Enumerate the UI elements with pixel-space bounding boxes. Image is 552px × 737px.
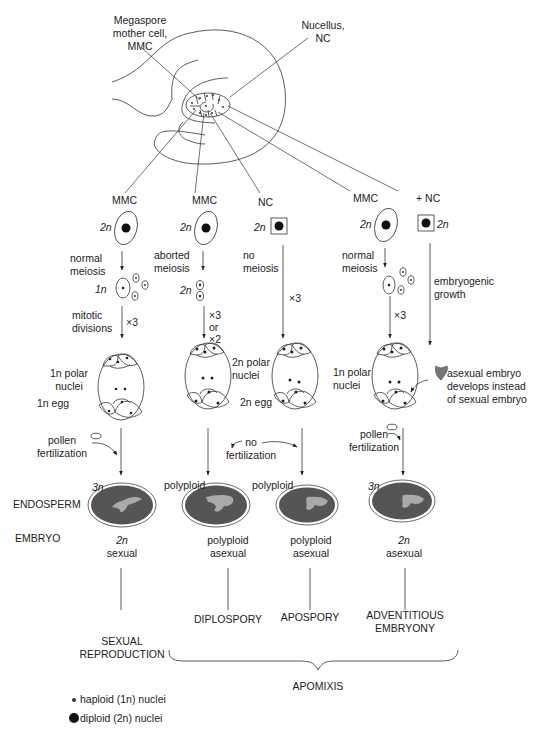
col1-after-ploidy: 1n [95, 283, 107, 296]
col4-origin: MMC [353, 192, 378, 205]
col2-step2-count: ×3or×2 [209, 309, 221, 345]
col3-step2-count: ×3 [289, 292, 301, 305]
col1-sac-polar: 1n polarnuclei [46, 367, 92, 393]
col4-nc-step: embryogenicgrowth [434, 275, 494, 301]
apomixis-label: APOMIXIS [268, 680, 368, 693]
col2-sac-polar: 2n polarnuclei [232, 356, 270, 382]
col4-sac-polar: 1n polarnuclei [333, 366, 371, 392]
col4-origin-extra: + NC [416, 192, 440, 205]
col3-step1: nomeiosis [243, 249, 279, 275]
pathway-apospory: APOSPORY [264, 611, 356, 624]
pathway-diplospory: DIPLOSPORY [180, 613, 276, 626]
col2-origin: MMC [192, 194, 217, 207]
no-fertilization: nofertilization [221, 436, 281, 462]
mmc-label: Megaspore mother cell, MMC [98, 14, 182, 53]
endosperm-row-label: ENDOSPERM [13, 498, 81, 511]
leader-lines [125, 38, 398, 193]
col4-step1: normalmeiosis [342, 249, 378, 275]
pathway-sexual: SEXUALREPRODUCTION [70, 635, 174, 661]
col2-endosperm-ploidy: polyploid [164, 479, 205, 492]
col4-step2-count: ×3 [394, 309, 406, 322]
col1-sac-egg: 1n egg [37, 397, 69, 410]
col4-embryo: 2nasexual [376, 534, 432, 560]
nucellus-label: Nucellus, NC [298, 19, 348, 45]
col1-origin: MMC [112, 194, 137, 207]
col4-ploidy: 2n [360, 218, 372, 231]
embryo-row-label: EMBRYO [15, 532, 60, 545]
col1-endosperm-ploidy: 3n [92, 481, 104, 494]
legend-diploid: diploid (2n) nuclei [80, 712, 162, 725]
col1-fertilization: pollenfertilization [33, 434, 91, 460]
col4-nc-ploidy: 2n [437, 218, 449, 231]
col1-ploidy: 2n [100, 221, 112, 234]
col4-fertilization: pollenfertilization [344, 428, 404, 454]
col3-endosperm-ploidy: polyploid [252, 479, 293, 492]
col3-sac-egg: 2n egg [240, 396, 272, 409]
col2-after-ploidy: 2n [180, 284, 192, 297]
col1-embryo: 2nsexual [96, 534, 148, 560]
col3-origin: NC [258, 196, 273, 209]
col4-endosperm-ploidy: 3n [368, 480, 380, 493]
diploid-dot-icon [69, 713, 79, 723]
col1-step1: normalmeiosis [70, 252, 106, 278]
col2-step1: abortedmeiosis [154, 249, 190, 275]
col3-ploidy: 2n [254, 221, 266, 234]
col3-embryo: polyploidasexual [283, 534, 339, 560]
apomixis-brace [169, 650, 458, 670]
pathway-adventitious: ADVENTITIOUSEMBRYONY [345, 609, 465, 635]
col2-ploidy: 2n [180, 221, 192, 234]
col1-step2: mitoticdivisions [72, 309, 112, 335]
asexual-embryo-note: asexual embryodevelops insteadof sexual … [447, 367, 527, 406]
legend-haploid: haploid (1n) nuclei [80, 693, 166, 706]
col2-embryo: polyploidasexual [200, 534, 256, 560]
col1-step2-count: ×3 [126, 316, 138, 329]
haploid-dot-icon [72, 698, 76, 702]
